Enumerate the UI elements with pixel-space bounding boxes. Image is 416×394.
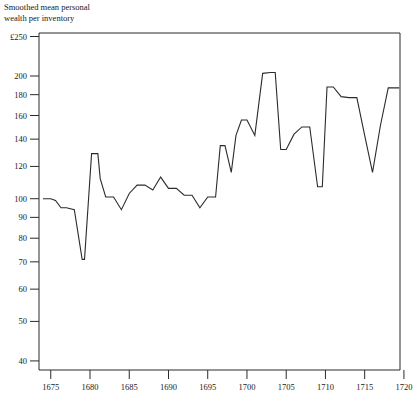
x-axis-ticks xyxy=(51,370,404,379)
x-tick-label-1715: 1715 xyxy=(356,382,373,392)
data-series-line xyxy=(43,73,399,260)
y-tick-label-140: 140 xyxy=(14,134,27,144)
x-tick-label-1690: 1690 xyxy=(160,382,177,392)
x-tick-label-1680: 1680 xyxy=(82,382,99,392)
x-tick-label-1720: 1720 xyxy=(395,382,412,392)
x-tick-label-1700: 1700 xyxy=(238,382,255,392)
y-tick-label-90: 90 xyxy=(19,212,28,222)
y-tick-label-250: £250 xyxy=(10,32,27,42)
plot-area: £250200180160140120100908070605040 16751… xyxy=(0,0,416,394)
x-tick-label-1710: 1710 xyxy=(317,382,334,392)
y-axis-ticks xyxy=(30,37,39,361)
x-tick-label-1675: 1675 xyxy=(42,382,59,392)
y-tick-label-160: 160 xyxy=(14,111,27,121)
y-tick-label-40: 40 xyxy=(19,356,28,366)
line-chart-svg: £250200180160140120100908070605040 16751… xyxy=(0,0,416,394)
y-tick-label-80: 80 xyxy=(19,233,28,243)
y-tick-label-200: 200 xyxy=(14,71,27,81)
y-tick-label-70: 70 xyxy=(19,257,28,267)
y-axis-tick-labels: £250200180160140120100908070605040 xyxy=(10,32,27,366)
y-tick-label-50: 50 xyxy=(19,316,28,326)
x-tick-label-1695: 1695 xyxy=(199,382,216,392)
y-tick-label-120: 120 xyxy=(14,161,27,171)
chart-page: Smoothed mean personalwealth per invento… xyxy=(0,0,416,394)
y-tick-label-100: 100 xyxy=(14,194,27,204)
x-tick-label-1705: 1705 xyxy=(278,382,295,392)
y-tick-label-180: 180 xyxy=(14,90,27,100)
x-tick-label-1685: 1685 xyxy=(121,382,138,392)
x-axis-tick-labels: 1675168016851690169517001705171017151720 xyxy=(42,382,412,392)
y-tick-label-60: 60 xyxy=(19,284,28,294)
